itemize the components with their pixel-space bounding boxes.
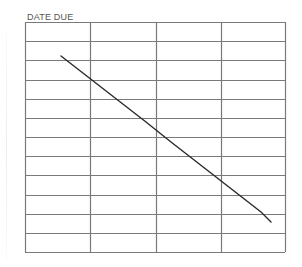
date-due-grid <box>0 0 302 267</box>
grid-lines <box>25 22 286 253</box>
